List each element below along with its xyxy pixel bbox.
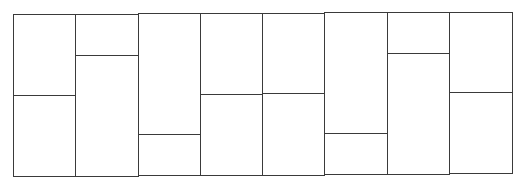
cell-col8-bottom: [449, 92, 513, 174]
cell-col2-top: [75, 14, 139, 56]
cell-col2-bottom: [75, 55, 139, 177]
cell-col3-bottom: [138, 134, 201, 176]
cell-col4-top: [200, 13, 263, 95]
rectangle-grid-diagram: [0, 0, 522, 184]
cell-col5-top: [262, 13, 325, 94]
cell-col6-bottom: [324, 133, 388, 175]
cell-col1-bottom: [13, 95, 76, 177]
cell-col7-bottom: [387, 53, 450, 175]
cell-col7-top: [387, 12, 450, 54]
cell-col5-bottom: [262, 93, 325, 176]
cell-col3-top: [138, 13, 201, 135]
cell-col1-top: [13, 14, 76, 96]
cell-col4-bottom: [200, 94, 263, 176]
cell-col8-top: [449, 12, 513, 93]
cell-col6-top: [324, 12, 388, 134]
